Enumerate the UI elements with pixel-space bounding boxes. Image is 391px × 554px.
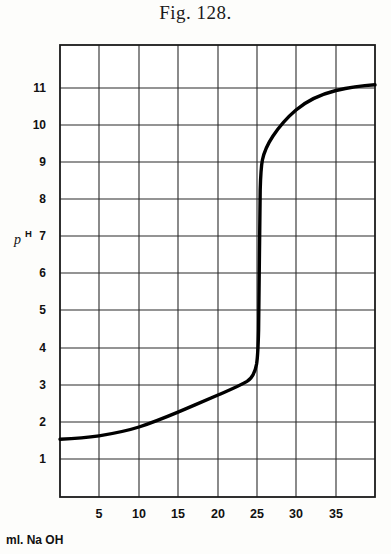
- x-axis-tick-labels: 5 10 15 20 25 30 35: [96, 507, 343, 521]
- y-tick-11: 11: [33, 81, 46, 95]
- y-tick-3: 3: [39, 378, 46, 392]
- figure-page: Fig. 128.: [0, 0, 391, 554]
- x-tick-30: 30: [289, 507, 303, 521]
- y-tick-5: 5: [39, 303, 46, 317]
- y-axis-label: p H: [13, 228, 32, 247]
- y-tick-2: 2: [39, 415, 46, 429]
- y-axis-label-h: H: [25, 228, 32, 239]
- y-tick-9: 9: [39, 155, 46, 169]
- y-tick-8: 8: [39, 192, 46, 206]
- y-tick-6: 6: [39, 266, 46, 280]
- y-tick-1: 1: [39, 452, 46, 466]
- y-axis-label-p: p: [13, 232, 21, 247]
- y-tick-7: 7: [39, 229, 46, 243]
- x-tick-15: 15: [171, 507, 185, 521]
- y-tick-10: 10: [33, 118, 47, 132]
- x-tick-25: 25: [250, 507, 264, 521]
- x-tick-10: 10: [132, 507, 146, 521]
- x-axis-label: ml. Na OH: [6, 533, 63, 547]
- titration-chart: 1 2 3 4 5 6 7 8 9 10 11 5 10 15 20 25 30…: [0, 0, 391, 554]
- x-tick-5: 5: [96, 507, 103, 521]
- y-axis-tick-labels: 1 2 3 4 5 6 7 8 9 10 11: [33, 81, 47, 466]
- y-tick-4: 4: [39, 341, 46, 355]
- x-tick-20: 20: [211, 507, 225, 521]
- x-tick-35: 35: [329, 507, 343, 521]
